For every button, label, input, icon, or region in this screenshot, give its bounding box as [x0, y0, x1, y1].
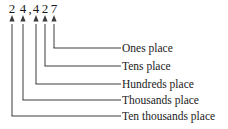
- place-label-tens-place: Tens place: [122, 60, 171, 72]
- arrowhead-icon-5: [51, 15, 56, 22]
- arrowhead-icon-1: [9, 15, 14, 22]
- arrowhead-icon-3: [33, 15, 38, 22]
- place-label-hundreds-place: Hundreds place: [122, 78, 194, 90]
- arrowhead-icon-2: [20, 15, 25, 22]
- place-value-diagram: 24,427 Ones placeTens placeHundreds plac…: [0, 0, 228, 129]
- place-label-ones-place: Ones place: [122, 42, 173, 54]
- place-label-thousands-place: Thousands place: [122, 94, 199, 106]
- arrow-connector-3: [33, 15, 121, 84]
- arrowhead-icon-4: [42, 15, 47, 22]
- place-label-ten-thousands-place: Ten thousands place: [122, 110, 215, 122]
- arrow-connector-5: [51, 15, 121, 48]
- arrow-connector-2: [20, 15, 121, 100]
